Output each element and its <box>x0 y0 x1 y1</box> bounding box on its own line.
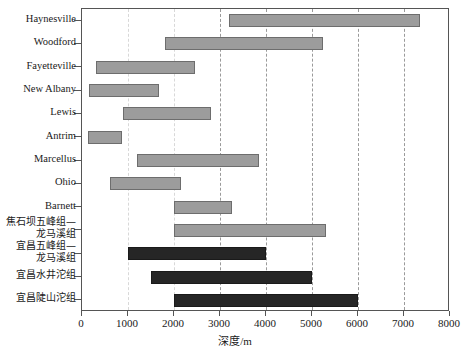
gridline-4000 <box>266 9 267 310</box>
bar-2 <box>96 61 195 74</box>
y-axis-label-4: Lewis <box>0 106 76 117</box>
bar-3 <box>89 84 159 97</box>
x-tick-label-6000: 6000 <box>332 317 382 329</box>
x-tick-label-2000: 2000 <box>148 317 198 329</box>
bar-0 <box>229 14 420 27</box>
y-axis-label-11: 宜昌水井沱组 <box>0 269 76 281</box>
x-tick-6000 <box>357 311 358 316</box>
y-axis-label-12: 宜昌陡山沱组 <box>0 292 76 304</box>
bar-11 <box>151 271 312 284</box>
x-tick-0 <box>81 311 82 316</box>
bar-10 <box>128 247 266 260</box>
x-tick-7000 <box>403 311 404 316</box>
x-axis-title-text: 深度 <box>218 335 240 348</box>
y-axis-label-0: Haynesville <box>0 13 76 24</box>
x-tick-label-5000: 5000 <box>286 317 336 329</box>
x-axis-title-unit: /m <box>240 335 252 347</box>
y-axis-label-6: Marcellus <box>0 153 76 164</box>
bar-1 <box>165 37 324 50</box>
x-tick-2000 <box>173 311 174 316</box>
x-tick-label-0: 0 <box>56 317 106 329</box>
gridline-1000 <box>128 9 129 310</box>
y-axis-label-1: Woodford <box>0 36 76 47</box>
x-axis-title: 深度/m <box>0 332 470 348</box>
bar-6 <box>137 154 259 167</box>
x-tick-label-1000: 1000 <box>102 317 152 329</box>
bar-7 <box>110 177 181 190</box>
x-tick-label-8000: 8000 <box>424 317 470 329</box>
bar-8 <box>174 201 232 214</box>
y-axis-label-7: Ohio <box>0 176 76 187</box>
x-tick-4000 <box>265 311 266 316</box>
gridline-7000 <box>404 9 405 310</box>
y-axis-label-8: Barnett <box>0 200 76 211</box>
bar-4 <box>123 107 210 120</box>
x-tick-label-4000: 4000 <box>240 317 290 329</box>
bar-5 <box>88 131 122 144</box>
x-tick-8000 <box>449 311 450 316</box>
y-axis-label-9: 焦石坝五峰组— 龙马溪组 <box>0 216 76 240</box>
y-axis-label-3: New Albany <box>0 83 76 94</box>
bar-12 <box>174 294 358 307</box>
x-tick-5000 <box>311 311 312 316</box>
bar-9 <box>174 224 326 237</box>
x-tick-label-3000: 3000 <box>194 317 244 329</box>
plot-area <box>81 8 449 311</box>
x-tick-1000 <box>127 311 128 316</box>
gridline-5000 <box>312 9 313 310</box>
gridline-6000 <box>358 9 359 310</box>
x-tick-3000 <box>219 311 220 316</box>
y-axis-label-2: Fayetteville <box>0 60 76 71</box>
y-axis-label-5: Antrim <box>0 130 76 141</box>
shale-depth-range-chart: HaynesvilleWoodfordFayettevilleNew Alban… <box>0 0 470 352</box>
x-tick-label-7000: 7000 <box>378 317 428 329</box>
y-axis-label-10: 宜昌五峰组— 龙马溪组 <box>0 240 76 264</box>
